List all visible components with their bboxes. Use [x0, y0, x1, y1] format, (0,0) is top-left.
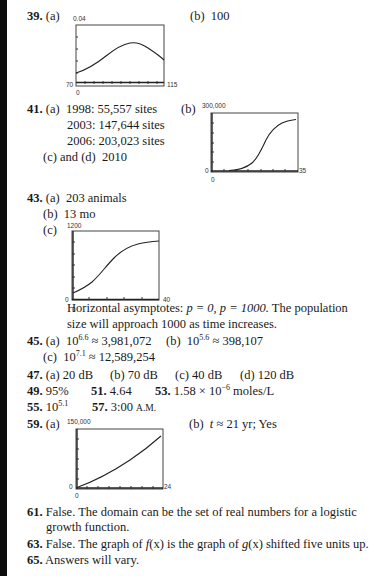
problem-63: 63. False. The graph of f(x) is the grap…: [27, 537, 369, 552]
problem-39-b: (b) 100: [190, 9, 230, 24]
problem-number: 53.: [155, 384, 171, 398]
answer-value: 20 dB: [63, 368, 93, 382]
problem-45: 45. (a) 106.6 ≈ 3,981,072: [27, 334, 152, 349]
exponent: 5.6: [199, 333, 209, 342]
answer-value: 203 animals: [66, 191, 127, 205]
graph-59a: 150,000 0 24 0: [60, 418, 180, 503]
problem-number: 61.: [27, 505, 43, 519]
part-label: (c): [175, 368, 189, 382]
part-label: (d): [240, 368, 255, 382]
answer-line: 1998: 55,557 sites: [66, 102, 157, 116]
problem-number: 45.: [27, 334, 43, 348]
problem-47-c: (c) 40 dB: [175, 368, 222, 383]
base: 10: [66, 334, 79, 348]
problem-43-b: (b) 13 mo: [43, 207, 95, 222]
answer-text: growth function.: [46, 520, 129, 535]
answer-value: ≈ 398,107: [212, 334, 263, 348]
part-label: (b): [166, 334, 181, 348]
meridiem: A.M.: [136, 403, 156, 413]
problem-number: 57.: [92, 400, 108, 414]
problem-41: 41. (a) 1998: 55,557 sites: [27, 102, 157, 117]
note-text: The population: [272, 301, 348, 315]
problem-number: 49.: [27, 384, 43, 398]
problem-59-b: (b) t ≈ 21 yr; Yes: [189, 417, 277, 432]
problem-49: 49. 95%: [27, 384, 69, 399]
part-label: (a): [46, 191, 60, 205]
answer-value: ≈ 21 yr; Yes: [213, 417, 276, 431]
problem-61: 61. False. The domain can be the set of …: [27, 505, 357, 520]
part-label: (b): [110, 368, 125, 382]
answer-value: 4.64: [110, 384, 132, 398]
problem-number: 55.: [27, 400, 43, 414]
graph-39a: 0.04 70 115 0: [60, 12, 180, 97]
problem-41-cd: (c) and (d) 2010: [43, 150, 127, 165]
answer-value: 1.58 × 10: [174, 384, 222, 398]
answer-value: 3:00: [111, 400, 136, 414]
answer-text: False. The graph of: [46, 537, 146, 551]
graph-41b: 300,000 0 35 0: [200, 100, 310, 190]
answer-value: 13 mo: [64, 207, 96, 221]
problem-51: 51. 4.64: [91, 384, 132, 399]
note-equation: p = 0, p = 1000.: [186, 301, 269, 315]
problem-65: 65. Answers will vary.: [27, 553, 139, 568]
answer-value: 2010: [102, 150, 127, 164]
part-label: (a): [46, 9, 60, 23]
answer-value: 40 dB: [192, 368, 222, 382]
base: 10: [63, 350, 76, 364]
part-label: (c) and (d): [43, 150, 96, 164]
plot-area: [200, 100, 310, 190]
exponent: −6: [221, 383, 230, 392]
answer-text: (x) shifted five units up.: [248, 537, 368, 551]
part-label: (b): [190, 9, 205, 23]
exponent: 7.1: [76, 349, 86, 358]
base: 10: [46, 400, 59, 414]
answer-line: 2006: 203,023 sites: [67, 134, 165, 149]
answer-text: (x) is the graph of: [149, 537, 242, 551]
answer-text: Answers will vary.: [45, 553, 139, 567]
part-label: (c): [43, 350, 57, 364]
base: 10: [187, 334, 200, 348]
part-label: (a): [46, 417, 60, 431]
problem-47: 47. (a) 20 dB: [27, 368, 93, 383]
problem-number: 51.: [91, 384, 107, 398]
problem-number: 63.: [27, 537, 43, 551]
problem-39: 39. (a): [27, 9, 60, 24]
problem-number: 39.: [27, 9, 43, 23]
problem-55: 55. 105.1: [27, 400, 68, 415]
problem-number: 41.: [27, 102, 43, 116]
part-label: (c): [43, 223, 57, 238]
part-label: (a): [46, 368, 60, 382]
answer-value: 100: [211, 9, 230, 23]
part-label: (b): [181, 102, 196, 117]
problem-number: 65.: [27, 553, 43, 567]
problem-43-note: Horizontal asymptotes: p = 0, p = 1000. …: [67, 301, 348, 316]
note-text: Horizontal asymptotes:: [67, 301, 183, 315]
problem-45-c: (c) 107.1 ≈ 12,589,254: [43, 350, 155, 365]
plot-area: [60, 222, 180, 307]
plot-area: [60, 12, 180, 97]
page-edge-shadow: [0, 0, 7, 576]
part-label: (a): [46, 334, 60, 348]
answer-text: False. The domain can be the set of real…: [46, 505, 357, 519]
problem-number: 59.: [27, 417, 43, 431]
part-label: (b): [43, 207, 58, 221]
answer-unit: moles/L: [230, 384, 274, 398]
graph-43c: 1200 0 40 0: [60, 222, 180, 307]
problem-47-d: (d) 120 dB: [240, 368, 294, 383]
problem-number: 47.: [27, 368, 43, 382]
answer-value: ≈ 12,589,254: [89, 350, 155, 364]
exponent: 6.6: [78, 333, 88, 342]
problem-43: 43. (a) 203 animals: [27, 191, 127, 206]
part-label: (a): [46, 102, 60, 116]
answer-value: 120 dB: [258, 368, 294, 382]
answer-value: ≈ 3,981,072: [92, 334, 152, 348]
problem-number: 43.: [27, 191, 43, 205]
problem-53: 53. 1.58 × 10−6 moles/L: [155, 384, 274, 399]
note-text: size will approach 1000 as time increase…: [67, 317, 277, 332]
problem-59: 59. (a): [27, 417, 60, 432]
problem-57: 57. 3:00 A.M.: [92, 400, 156, 416]
exponent: 5.1: [58, 399, 68, 408]
plot-area: [60, 418, 180, 503]
answer-value: 70 dB: [128, 368, 158, 382]
answer-value: 95%: [46, 384, 69, 398]
